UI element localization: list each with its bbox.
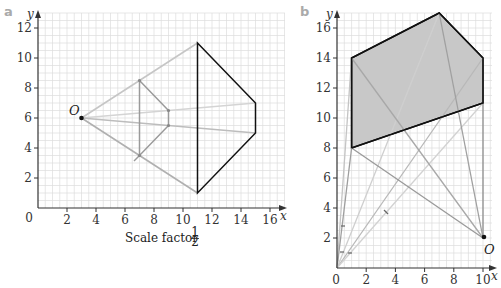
centre-label-b: O	[484, 242, 495, 257]
x-tick-label: 10	[475, 273, 490, 287]
panel-b-label: b	[300, 4, 309, 19]
x-tick-label: 2	[362, 273, 370, 287]
panel-b: b	[300, 4, 498, 287]
centre-point-a	[79, 116, 84, 121]
x-tick-label: 8	[450, 273, 458, 287]
x-axis-label-a: x	[280, 209, 287, 223]
x-tick-label: 2	[63, 213, 71, 227]
ticks-a	[34, 28, 270, 212]
caption-text-a: Scale factor	[125, 231, 198, 245]
x-tick-label: 4	[92, 213, 100, 227]
y-tick-label: 2	[323, 231, 331, 245]
panel-a-label: a	[4, 4, 13, 19]
x-tick-label: 4	[392, 273, 400, 287]
y-tick-label: 4	[323, 201, 331, 215]
centre-label-a: O	[69, 103, 80, 118]
y-tick-label: 4	[24, 141, 32, 155]
panel-a: a	[4, 4, 287, 249]
y-tick-label: 10	[316, 111, 331, 125]
y-tick-label: 12	[316, 81, 331, 95]
y-axis-arrow-b	[334, 10, 340, 18]
x-tick-label: 14	[233, 213, 249, 227]
y-tick-label: 14	[316, 51, 332, 65]
x-tick-label: 16	[262, 213, 277, 227]
figure: a	[0, 0, 501, 288]
caption-fraction-den: 2	[191, 235, 199, 249]
y-tick-label: 2	[24, 171, 32, 185]
y-tick-label: 6	[323, 171, 331, 185]
y-tick-label: 16	[316, 21, 331, 35]
y-tick-label: 12	[17, 21, 32, 35]
y-axis-arrow-a	[35, 10, 41, 18]
caption-a: Scale factor 1 2	[125, 225, 199, 249]
x-tick-label: 10	[175, 213, 190, 227]
y-tick-label: 10	[17, 51, 32, 65]
x-tick-label: 6	[421, 273, 429, 287]
x-tick-labels-a: 2 4 6 8 10 12 14 16	[63, 213, 277, 227]
x-tick-label: 12	[204, 213, 219, 227]
x-tick-labels-b: 2 4 6 8 10	[362, 273, 490, 287]
y-tick-label: 8	[323, 141, 331, 155]
y-axis-label-a: y	[26, 7, 34, 21]
y-axis-label-b: y	[325, 7, 333, 21]
centre-point-b	[482, 235, 487, 240]
origin-label-b: 0	[332, 273, 340, 287]
x-tick-label: 8	[150, 213, 158, 227]
x-axis-label-b: x	[491, 269, 498, 283]
y-tick-labels-a: 2 4 6 8 10 12	[17, 21, 33, 185]
origin-label-a: 0	[25, 211, 33, 225]
y-tick-label: 8	[24, 81, 32, 95]
y-tick-label: 6	[24, 111, 32, 125]
y-tick-labels-b: 2 4 6 8 10 12 14 16	[316, 21, 332, 245]
x-tick-label: 6	[121, 213, 129, 227]
